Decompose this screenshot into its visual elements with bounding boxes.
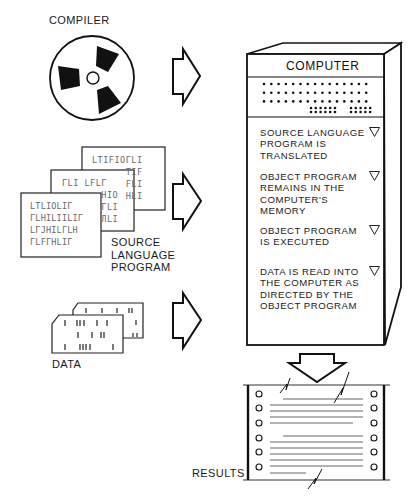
computer-title: COMPUTER bbox=[286, 59, 359, 73]
data-label: DATA bbox=[52, 358, 81, 370]
printout-paper-icon bbox=[243, 372, 390, 489]
step-2-text: OBJECT PROGRAM REMAINS IN THE COMPUTER'S… bbox=[260, 171, 378, 216]
compiler-label: COMPILER bbox=[49, 14, 110, 26]
triangle-down-icon bbox=[369, 225, 380, 235]
diagram-artwork bbox=[0, 0, 418, 504]
results-label: RESULTS bbox=[192, 467, 245, 479]
triangle-down-icon bbox=[369, 171, 380, 181]
step-4-text: DATA IS READ INTO THE COMPUTER AS DIRECT… bbox=[260, 266, 378, 311]
source-card-front-text: LTLIOLIГ ГLHILIILIГ LГJHILГLH ГLFГHLIГ bbox=[30, 200, 83, 248]
compiler-flow-diagram: COMPILER LTIFIOГLI TIF FLI HLI ГLI LFLГ … bbox=[0, 0, 418, 504]
step-3: OBJECT PROGRAM IS EXECUTED bbox=[260, 225, 378, 248]
source-language-program-label: SOURCE LANGUAGE PROGRAM bbox=[111, 236, 175, 274]
triangle-down-icon bbox=[369, 266, 380, 276]
triangle-down-icon bbox=[369, 127, 380, 137]
arrow-right-icon-data bbox=[173, 293, 201, 348]
arrow-right-icon-compiler bbox=[173, 49, 200, 104]
arrow-right-icon-source bbox=[173, 174, 201, 229]
arrow-down-icon bbox=[289, 354, 345, 382]
step-4: DATA IS READ INTO THE COMPUTER AS DIRECT… bbox=[260, 266, 378, 311]
step-1: SOURCE LANGUAGE PROGRAM IS TRANSLATED bbox=[260, 127, 378, 161]
tape-reel-icon bbox=[50, 36, 134, 120]
step-2: OBJECT PROGRAM REMAINS IN THE COMPUTER'S… bbox=[260, 171, 378, 216]
step-1-text: SOURCE LANGUAGE PROGRAM IS TRANSLATED bbox=[260, 127, 378, 161]
punch-cards-icon bbox=[52, 303, 143, 353]
step-3-text: OBJECT PROGRAM IS EXECUTED bbox=[260, 225, 378, 248]
